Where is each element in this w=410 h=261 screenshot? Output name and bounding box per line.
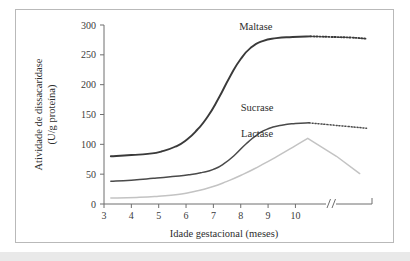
x-tick-label: 4 bbox=[129, 210, 134, 221]
y-tick-label: 250 bbox=[81, 49, 96, 60]
axis-spines bbox=[104, 25, 326, 204]
series-layer bbox=[111, 36, 367, 198]
series-line-lactase bbox=[111, 138, 360, 198]
figure-root: 050100150200250300345678910 MaltaseSucra… bbox=[0, 0, 410, 261]
series-line-maltase bbox=[111, 36, 311, 156]
x-tick-label: 6 bbox=[184, 210, 189, 221]
x-tick-label: 9 bbox=[266, 210, 271, 221]
y-axis-title-line1: Atividade de dissacaridase bbox=[33, 58, 44, 170]
bottom-strip bbox=[0, 252, 410, 261]
series-line-sucrase bbox=[111, 123, 309, 181]
x-tick-label: 3 bbox=[102, 210, 107, 221]
series-label-sucrase: Sucrase bbox=[241, 102, 274, 113]
y-tick-label: 150 bbox=[81, 109, 96, 120]
series-label-lactase: Lactase bbox=[241, 128, 273, 139]
y-tick-label: 0 bbox=[91, 199, 96, 210]
x-tick-label: 10 bbox=[290, 210, 300, 221]
y-axis-title-line2: (U/g proteína) bbox=[46, 84, 58, 144]
label-layer: MaltaseSucraseLactaseIdade gestacional (… bbox=[33, 21, 279, 240]
series-label-maltase: Maltase bbox=[239, 21, 273, 32]
x-tick-label: 8 bbox=[238, 210, 243, 221]
x-tick-label: 7 bbox=[211, 210, 216, 221]
series-dotted-sucrase bbox=[309, 123, 366, 128]
axis-layer: 050100150200250300345678910 bbox=[81, 20, 372, 222]
y-tick-label: 50 bbox=[86, 169, 96, 180]
x-tick-label: 5 bbox=[156, 210, 161, 221]
chart-frame: 050100150200250300345678910 MaltaseSucra… bbox=[15, 9, 394, 243]
x-axis-title: Idade gestacional (meses) bbox=[170, 228, 279, 240]
axis-break-icon bbox=[327, 199, 336, 208]
series-dotted-maltase bbox=[310, 36, 366, 38]
y-tick-label: 200 bbox=[81, 79, 96, 90]
axis-x-after-break bbox=[336, 198, 372, 204]
y-axis-title: Atividade de dissacaridase(U/g proteína) bbox=[33, 58, 58, 170]
y-tick-label: 300 bbox=[81, 20, 96, 31]
disaccharidase-activity-chart: 050100150200250300345678910 MaltaseSucra… bbox=[16, 10, 393, 242]
y-tick-label: 100 bbox=[81, 139, 96, 150]
